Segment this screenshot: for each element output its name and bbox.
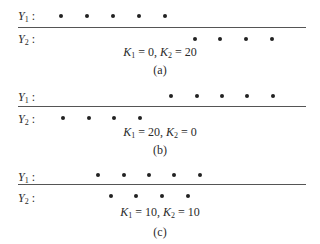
data-dot	[59, 14, 63, 18]
data-dot	[172, 173, 176, 177]
data-dot	[271, 94, 275, 98]
data-dot	[61, 116, 65, 120]
data-dot	[138, 116, 142, 120]
data-dot	[218, 37, 222, 41]
y1-label: Y1 :	[18, 10, 35, 26]
data-dot	[112, 116, 116, 120]
k-values: K1 = 20, K2 = 0	[0, 126, 320, 142]
data-dot	[169, 94, 173, 98]
data-dot	[96, 173, 100, 177]
data-dot	[220, 94, 224, 98]
divider-line	[18, 106, 306, 107]
data-dot	[244, 37, 248, 41]
data-dot	[109, 194, 113, 198]
data-dot	[245, 94, 249, 98]
data-dot	[122, 173, 126, 177]
data-dot	[87, 116, 91, 120]
y1-label: Y1 :	[18, 91, 35, 107]
data-dot	[85, 14, 89, 18]
data-dot	[195, 94, 199, 98]
data-dot	[186, 194, 190, 198]
divider-line	[18, 27, 306, 28]
data-dot	[147, 173, 151, 177]
data-dot	[198, 173, 202, 177]
data-dot	[137, 14, 141, 18]
panel-c: Y1 : Y2 : K1 = 10, K2 = 10 (c)	[0, 160, 320, 240]
panel-a: Y1 : Y2 : K1 = 0, K2 = 20 (a)	[0, 0, 320, 80]
data-dot	[270, 37, 274, 41]
k-values: K1 = 10, K2 = 10	[0, 206, 320, 222]
data-dot	[160, 194, 164, 198]
divider-line	[18, 184, 306, 185]
caption: (b)	[0, 144, 320, 156]
caption: (a)	[0, 64, 320, 76]
data-dot	[134, 194, 138, 198]
k-values: K1 = 0, K2 = 20	[0, 46, 320, 62]
data-dot	[163, 14, 167, 18]
data-dot	[111, 14, 115, 18]
data-dot	[193, 37, 197, 41]
panel-b: Y1 : Y2 : K1 = 20, K2 = 0 (b)	[0, 80, 320, 160]
caption: (c)	[0, 226, 320, 238]
